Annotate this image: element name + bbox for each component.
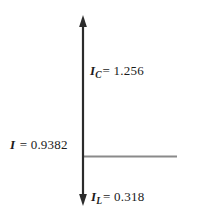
arrowhead-up-icon [79,15,87,27]
label-inductive-current: IL= 0.318 [91,190,144,206]
label-inductive-value: 0.318 [114,189,144,204]
label-total-value: 0.9382 [31,137,68,152]
label-total-equals: = [19,137,28,152]
label-capacitive-value: 1.256 [114,63,144,78]
label-capacitive-current: IC= 1.256 [90,64,144,80]
label-total-current: I = 0.9382 [10,138,68,151]
label-total-symbol: I [10,137,15,152]
label-inductive-equals: = [102,189,111,204]
phasor-diagram: IC= 1.256 I = 0.9382 IL= 0.318 [0,0,202,223]
label-capacitive-equals: = [102,63,111,78]
label-capacitive-subscript: C [95,70,101,80]
arrowhead-down-icon [79,194,87,206]
